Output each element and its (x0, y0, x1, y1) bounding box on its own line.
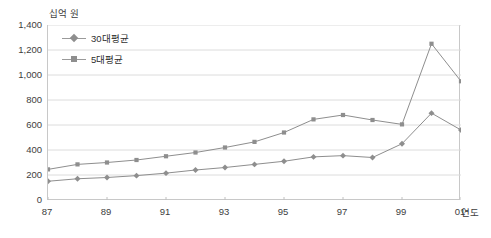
data-point-marker (75, 176, 81, 182)
legend-item: 30대평균 (62, 31, 129, 45)
legend-diamond-marker-icon (62, 34, 86, 43)
data-point-marker (193, 150, 197, 154)
data-point-marker (134, 173, 140, 179)
data-point-marker (252, 140, 256, 144)
data-point-marker (252, 161, 258, 167)
data-point-marker (134, 158, 138, 162)
data-point-marker (193, 167, 199, 173)
y-axis-tick-label: 600 (0, 120, 42, 130)
x-axis-label: 연도 (461, 205, 479, 219)
data-point-marker (459, 79, 461, 83)
y-axis-tick-label: 1,200 (0, 45, 42, 55)
data-point-marker (281, 158, 287, 164)
data-point-marker (429, 42, 433, 46)
data-point-marker (105, 160, 109, 164)
data-point-marker (341, 113, 345, 117)
y-axis-tick-label: 0 (0, 195, 42, 205)
x-axis-tick-label: 93 (209, 207, 239, 217)
x-axis-tick-label: 95 (268, 207, 298, 217)
data-point-marker (458, 127, 461, 133)
data-point-marker (311, 154, 317, 160)
data-point-marker (223, 145, 227, 149)
y-axis-tick-label: 1,400 (0, 20, 42, 30)
data-point-marker (400, 122, 404, 126)
x-axis-tick-label: 99 (386, 207, 416, 217)
y-axis-tick-label: 400 (0, 145, 42, 155)
data-point-marker (370, 118, 374, 122)
data-point-marker (48, 167, 50, 171)
x-axis-tick-label: 89 (91, 207, 121, 217)
legend-item-label: 5대평균 (91, 52, 123, 66)
data-point-marker (311, 117, 315, 121)
chart-legend: 30대평균5대평균 (62, 31, 129, 66)
data-point-marker (164, 154, 168, 158)
data-point-marker (370, 155, 376, 161)
data-point-marker (48, 178, 51, 184)
y-axis-unit-label: 십억 원 (49, 6, 79, 20)
series-line (48, 113, 461, 181)
data-point-marker (222, 165, 228, 171)
legend-item-label: 30대평균 (91, 31, 129, 45)
y-axis-tick-label: 800 (0, 95, 42, 105)
data-point-marker (340, 153, 346, 159)
x-axis-tick-label: 91 (150, 207, 180, 217)
x-axis-tick-label: 87 (32, 207, 62, 217)
data-point-marker (282, 130, 286, 134)
legend-square-marker-icon (62, 55, 86, 64)
x-axis-tick-label: 97 (327, 207, 357, 217)
y-axis-tick-label: 1,000 (0, 70, 42, 80)
clipped-title-text (196, 0, 346, 2)
legend-item: 5대평균 (62, 52, 129, 66)
y-axis-tick-label: 200 (0, 170, 42, 180)
line-chart: 십억 원 02004006008001,0001,2001,400 878991… (0, 0, 491, 238)
data-point-marker (75, 162, 79, 166)
